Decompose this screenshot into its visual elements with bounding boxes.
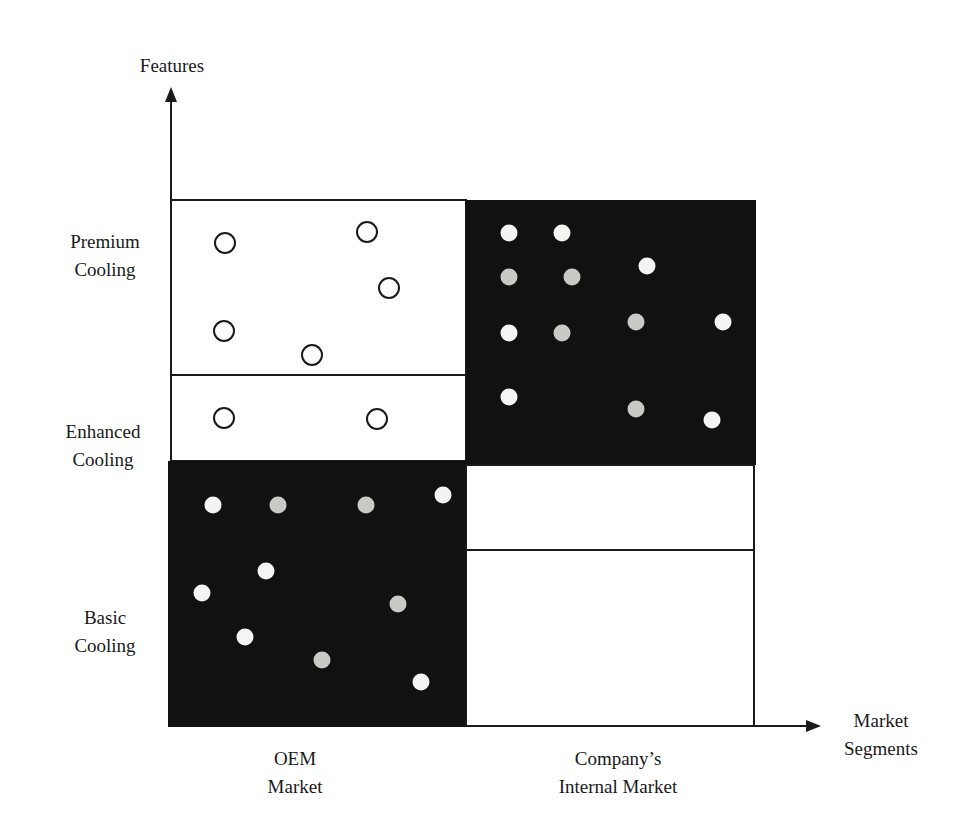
- row-label-basic: Basic Cooling: [40, 604, 170, 660]
- filled-dot-marker: [704, 412, 721, 429]
- filled-dot-marker: [413, 674, 430, 691]
- y-axis-label: Features: [120, 52, 224, 80]
- hollow-circle-marker: [367, 409, 387, 429]
- filled-dot-marker: [205, 497, 222, 514]
- row-label-basic-line1: Basic: [40, 604, 170, 632]
- column-label-oem: OEM Market: [225, 745, 365, 801]
- x-axis-arrow-icon: [806, 720, 821, 732]
- row-label-premium: Premium Cooling: [40, 228, 170, 284]
- filled-dot-marker: [501, 225, 518, 242]
- hollow-circle-marker: [379, 278, 399, 298]
- filled-dot-marker: [628, 401, 645, 418]
- filled-dot-marker: [639, 258, 656, 275]
- column-label-oem-line1: OEM: [225, 745, 365, 773]
- filled-dot-marker: [715, 314, 732, 331]
- hollow-circle-marker: [214, 408, 234, 428]
- column-label-internal-line2: Internal Market: [518, 773, 718, 801]
- x-axis-label-line2: Segments: [826, 735, 936, 763]
- hollow-circle-marker: [215, 233, 235, 253]
- panel-internal-basic: [466, 550, 754, 726]
- y-axis-arrow-icon: [165, 87, 177, 102]
- filled-dot-marker: [564, 269, 581, 286]
- filled-dot-marker: [237, 629, 254, 646]
- filled-dot-marker: [501, 325, 518, 342]
- hollow-circle-marker: [302, 345, 322, 365]
- filled-dot-marker: [270, 497, 287, 514]
- hollow-circle-marker: [357, 222, 377, 242]
- column-label-internal: Company’s Internal Market: [518, 745, 718, 801]
- filled-dot-marker: [314, 652, 331, 669]
- filled-dot-marker: [501, 269, 518, 286]
- filled-dot-marker: [258, 563, 275, 580]
- filled-dot-marker: [435, 487, 452, 504]
- x-axis-label-line1: Market: [826, 707, 936, 735]
- panel-internal-enhanced-lower: [466, 465, 754, 550]
- row-label-enhanced-line2: Cooling: [23, 446, 183, 474]
- column-label-internal-line1: Company’s: [518, 745, 718, 773]
- filled-dot-marker: [628, 314, 645, 331]
- row-label-premium-line2: Cooling: [40, 256, 170, 284]
- row-label-enhanced: Enhanced Cooling: [23, 418, 183, 474]
- hollow-circle-marker: [214, 321, 234, 341]
- x-axis-label: Market Segments: [826, 707, 936, 763]
- row-label-enhanced-line1: Enhanced: [23, 418, 183, 446]
- row-label-basic-line2: Cooling: [40, 632, 170, 660]
- filled-dot-marker: [554, 325, 571, 342]
- filled-dot-marker: [501, 389, 518, 406]
- filled-dot-marker: [358, 497, 375, 514]
- row-label-premium-line1: Premium: [40, 228, 170, 256]
- filled-dot-marker: [554, 225, 571, 242]
- filled-dot-marker: [194, 585, 211, 602]
- filled-dot-marker: [390, 596, 407, 613]
- column-label-oem-line2: Market: [225, 773, 365, 801]
